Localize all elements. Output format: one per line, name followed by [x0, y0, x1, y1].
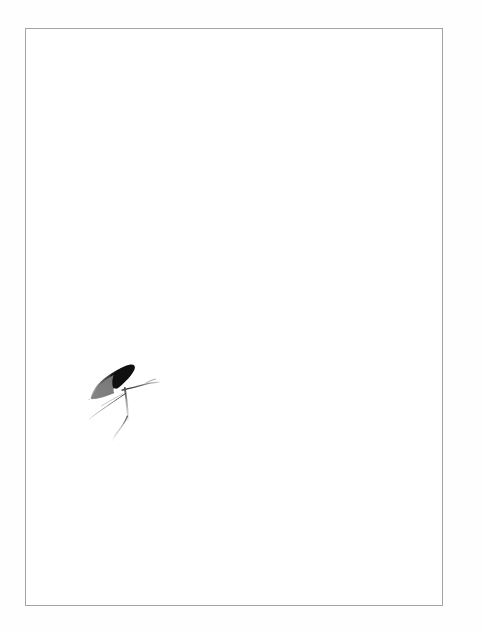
- antenna-right-stroke: [122, 379, 158, 390]
- plate-page: [0, 0, 482, 632]
- plate-frame-border: [25, 28, 443, 606]
- artwork-area: [26, 29, 442, 605]
- tail-curve-stroke: [113, 416, 127, 439]
- ink-brush-figure: [78, 336, 174, 448]
- body-wedge-stroke: [91, 364, 135, 399]
